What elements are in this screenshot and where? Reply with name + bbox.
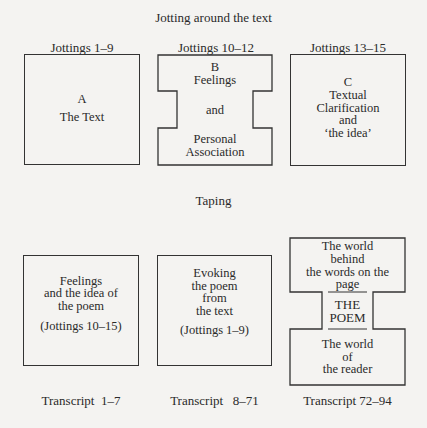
box-b-line-and: and bbox=[157, 104, 273, 117]
poem-top-line-4: page bbox=[289, 278, 406, 291]
poem-bottom-line-3: the reader bbox=[289, 363, 406, 376]
section-title-jotting: Jotting around the text bbox=[0, 10, 427, 26]
box-c-line-the-idea: ‘the idea’ bbox=[290, 127, 406, 140]
box-evoking-jottings-ref: (Jottings 1–9) bbox=[157, 324, 272, 337]
caption-transcript-72-94: Transcript 72–94 bbox=[289, 393, 406, 409]
poem-center-poem: POEM bbox=[289, 311, 406, 324]
caption-transcript-1-7: Transcript 1–7 bbox=[23, 393, 139, 409]
box-evoking-line-4: the text bbox=[157, 305, 272, 318]
box-b-line-feelings: Feelings bbox=[157, 74, 273, 87]
box-feelings-jottings-ref: (Jottings 10–15) bbox=[23, 320, 139, 333]
box-b-line-association: Association bbox=[157, 146, 273, 159]
section-title-taping: Taping bbox=[0, 193, 427, 209]
caption-transcript-8-71: Transcript 8–71 bbox=[157, 393, 272, 409]
box-feelings-line-3: the poem bbox=[23, 300, 139, 313]
box-a-letter: A bbox=[24, 93, 140, 106]
box-a-label: The Text bbox=[24, 111, 140, 124]
